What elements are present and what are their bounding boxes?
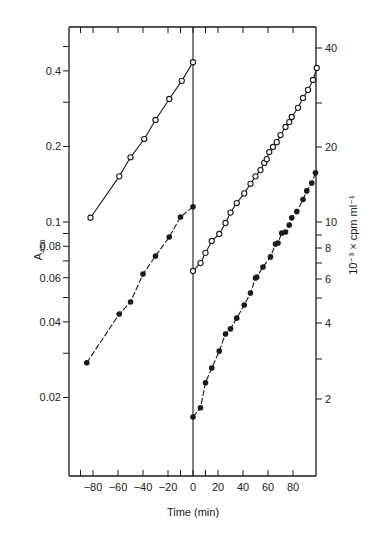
open-circle-marker bbox=[128, 155, 133, 160]
x-tick-label: −20 bbox=[159, 481, 178, 493]
filled-circle-marker bbox=[286, 222, 292, 228]
x-axis-title: Time (min) bbox=[167, 506, 219, 518]
y-axis-left-title: A450 bbox=[32, 239, 47, 260]
open-circle-marker bbox=[305, 87, 310, 92]
open-circle-marker bbox=[117, 174, 122, 179]
filled-circle-marker bbox=[241, 302, 247, 308]
filled-circle-marker bbox=[234, 315, 240, 321]
x-tick-label: −60 bbox=[109, 481, 128, 493]
open-circle-marker bbox=[217, 231, 222, 236]
filled-circle-marker bbox=[178, 214, 184, 220]
y-left-tick-label: 0.02 bbox=[40, 391, 61, 403]
y-right-tick-label: 4 bbox=[325, 317, 331, 329]
x-tick-label: 40 bbox=[237, 481, 249, 493]
filled-circle-marker bbox=[223, 331, 229, 337]
open-circle-marker bbox=[287, 120, 292, 125]
filled-circle-marker bbox=[166, 234, 172, 240]
open-circle-marker bbox=[283, 124, 288, 129]
open-circle-marker bbox=[88, 215, 93, 220]
open-circle-marker bbox=[289, 114, 294, 119]
filled-circle-marker bbox=[304, 188, 310, 194]
y-right-tick-label: 6 bbox=[325, 273, 331, 285]
filled-circle-marker bbox=[190, 414, 196, 420]
open-circle-marker bbox=[258, 167, 263, 172]
open-circle-marker bbox=[253, 174, 258, 179]
filled-circle-marker bbox=[260, 264, 266, 270]
series-lines bbox=[87, 62, 317, 417]
open-circle-marker bbox=[295, 105, 300, 110]
y-right-tick-label: 10 bbox=[325, 216, 337, 228]
open-circle-marker bbox=[314, 65, 319, 70]
filled-circle-marker bbox=[275, 240, 281, 246]
y-left-tick-label: 0.2 bbox=[46, 140, 61, 152]
open-circle-marker bbox=[264, 157, 269, 162]
y-left-tick-label: 0.04 bbox=[40, 316, 61, 328]
filled-circle-marker bbox=[294, 209, 300, 215]
tick-labels: −80−60−40−200204060800.40.20.10.080.060.… bbox=[40, 42, 338, 493]
open-circle-marker bbox=[142, 136, 147, 141]
y-left-tick-label: 0.1 bbox=[46, 216, 61, 228]
filled-circle-marker bbox=[216, 348, 222, 354]
open-circle-marker bbox=[274, 140, 279, 145]
y-left-tick-label: 0.4 bbox=[46, 65, 61, 77]
x-tick-label: 0 bbox=[190, 481, 196, 493]
open-circle-marker bbox=[209, 238, 214, 243]
filled-circle-marker bbox=[84, 360, 90, 366]
y-right-tick-label: 40 bbox=[325, 42, 337, 54]
y-axis-right-title: 10⁻³ × cpm ml⁻¹ bbox=[347, 195, 359, 275]
open-circle-marker bbox=[248, 181, 253, 186]
open-circle-marker bbox=[278, 132, 283, 137]
open-circle-marker bbox=[190, 268, 195, 273]
open-circle-marker bbox=[270, 144, 275, 149]
open-circle-marker bbox=[167, 96, 172, 101]
filled-circle-marker bbox=[128, 299, 134, 305]
filled-circle-marker bbox=[289, 215, 295, 221]
svg-text:A450: A450 bbox=[32, 239, 47, 260]
filled-circle-marker bbox=[228, 326, 234, 332]
y-left-tick-label: 0.06 bbox=[40, 272, 61, 284]
filled-circle-marker bbox=[198, 405, 204, 411]
open-circle-marker bbox=[228, 210, 233, 215]
x-tick-label: 80 bbox=[287, 481, 299, 493]
filled-circle-marker bbox=[140, 271, 146, 277]
filled-circle-marker bbox=[254, 274, 260, 280]
filled-circle-marker bbox=[153, 253, 159, 259]
filled-circle-marker bbox=[268, 254, 274, 260]
filled-circle-marker bbox=[116, 311, 122, 317]
x-tick-label: −40 bbox=[134, 481, 153, 493]
open-circle-marker bbox=[179, 78, 184, 83]
open-circle-marker bbox=[234, 200, 239, 205]
filled-circle-marker bbox=[309, 180, 315, 186]
filled-circle-marker bbox=[203, 380, 209, 386]
open-circle-marker bbox=[153, 117, 158, 122]
open-circle-marker bbox=[300, 95, 305, 100]
filled-circle-marker bbox=[313, 170, 319, 176]
filled-circle-marker bbox=[300, 197, 306, 203]
open-circle-marker bbox=[310, 77, 315, 82]
y-right-tick-label: 2 bbox=[325, 393, 331, 405]
filled-circle-marker bbox=[209, 365, 215, 371]
x-tick-label: 20 bbox=[212, 481, 224, 493]
filled-circle-marker bbox=[283, 229, 289, 235]
y-right-tick-label: 8 bbox=[325, 242, 331, 254]
x-tick-label: −80 bbox=[84, 481, 103, 493]
plot-frame bbox=[69, 27, 316, 476]
y-right-tick-label: 20 bbox=[325, 141, 337, 153]
open-circle-marker bbox=[190, 60, 195, 65]
open-circle-marker bbox=[203, 250, 208, 255]
y-left-title-sub: 450 bbox=[38, 239, 47, 253]
chart: −80−60−40−200204060800.40.20.10.080.060.… bbox=[0, 0, 376, 538]
open-circle-marker bbox=[223, 220, 228, 225]
filled-circle-marker bbox=[190, 204, 196, 210]
x-tick-label: 60 bbox=[262, 481, 274, 493]
series-line bbox=[87, 207, 193, 363]
data-points bbox=[84, 60, 319, 420]
open-circle-marker bbox=[267, 149, 272, 154]
open-circle-marker bbox=[198, 260, 203, 265]
filled-circle-marker bbox=[248, 290, 254, 296]
open-circle-marker bbox=[242, 191, 247, 196]
